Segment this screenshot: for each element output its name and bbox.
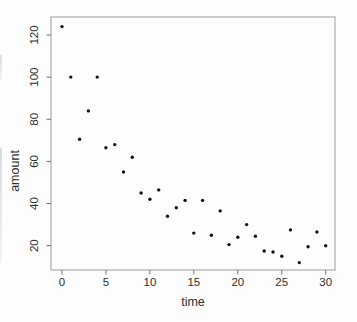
data-point <box>122 170 125 173</box>
data-point <box>227 243 230 246</box>
data-point <box>201 199 204 202</box>
data-point <box>289 228 292 231</box>
data-point <box>69 75 72 78</box>
data-point <box>315 230 318 233</box>
y-tick-label: 40 <box>28 197 40 210</box>
data-point <box>131 156 134 159</box>
data-point <box>60 25 63 28</box>
data-point <box>271 250 274 253</box>
y-tick-label: 120 <box>28 25 40 44</box>
data-point <box>139 191 142 194</box>
y-axis-title: amount <box>8 150 22 192</box>
data-point <box>324 244 327 247</box>
x-tick-label: 15 <box>187 276 200 288</box>
x-tick-label: 30 <box>319 276 332 288</box>
data-point <box>104 146 107 149</box>
data-point <box>245 223 248 226</box>
y-tick-label: 60 <box>28 155 40 168</box>
plot-canvas: 051015202530 20406080100120 time amount <box>0 0 357 322</box>
y-tick-label: 80 <box>28 113 40 126</box>
data-point <box>175 206 178 209</box>
data-point <box>263 249 266 252</box>
data-point <box>219 209 222 212</box>
data-points <box>60 25 327 264</box>
x-axis: 051015202530 <box>59 270 332 288</box>
x-tick-label: 25 <box>275 276 288 288</box>
x-tick-label: 5 <box>103 276 109 288</box>
data-point <box>210 234 213 237</box>
y-tick-label: 20 <box>28 239 40 252</box>
data-point <box>280 255 283 258</box>
data-point <box>254 235 257 238</box>
data-point <box>306 245 309 248</box>
data-point <box>148 198 151 201</box>
data-point <box>236 236 239 239</box>
data-point <box>113 143 116 146</box>
data-point <box>87 109 90 112</box>
scatter-plot-figure: 051015202530 20406080100120 time amount <box>0 0 357 322</box>
x-tick-label: 10 <box>144 276 157 288</box>
data-point <box>78 138 81 141</box>
y-axis: 20406080100120 <box>28 25 51 252</box>
data-point <box>298 261 301 264</box>
data-point <box>157 188 160 191</box>
x-tick-label: 0 <box>59 276 65 288</box>
data-point <box>183 199 186 202</box>
data-point <box>192 231 195 234</box>
data-point <box>96 75 99 78</box>
data-point <box>166 215 169 218</box>
x-tick-label: 20 <box>231 276 244 288</box>
x-axis-title: time <box>181 295 205 309</box>
y-tick-label: 100 <box>28 68 40 87</box>
